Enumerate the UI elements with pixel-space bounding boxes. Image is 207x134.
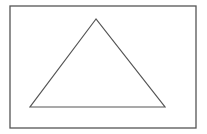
geometric-figure	[0, 0, 207, 134]
triangle-shape	[30, 19, 165, 107]
frame-rectangle	[10, 6, 196, 128]
diagram-canvas	[0, 0, 207, 134]
